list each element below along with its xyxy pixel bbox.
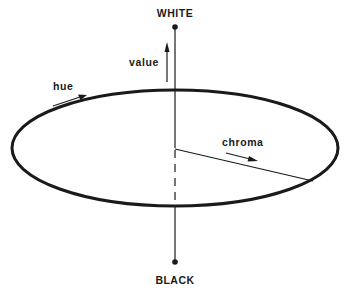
- black-label: BLACK: [155, 274, 194, 286]
- white-label: WHITE: [157, 7, 193, 19]
- chroma-radius: [175, 149, 313, 181]
- value-arrow-icon: [165, 42, 170, 82]
- chroma-arrow-icon: [226, 153, 258, 162]
- munsell-diagram: WHITE BLACK value hue chroma: [0, 0, 351, 296]
- hue-label: hue: [53, 80, 73, 92]
- white-point: [172, 24, 178, 30]
- chroma-label: chroma: [222, 136, 264, 148]
- black-point: [172, 259, 178, 265]
- value-label: value: [129, 56, 159, 68]
